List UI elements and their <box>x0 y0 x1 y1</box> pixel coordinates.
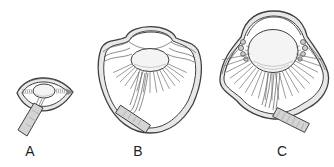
eye-b-drawing <box>90 12 222 152</box>
eye-a-optic-nerve <box>18 103 43 136</box>
eye-c-drawing <box>212 4 334 154</box>
eye-diagram-b <box>90 12 222 152</box>
panel-label-c: C <box>275 144 289 159</box>
panel-label-b: B <box>131 144 145 159</box>
eye-diagram-c <box>212 4 334 154</box>
eye-b-lens <box>131 49 169 72</box>
panel-label-a: A <box>23 144 37 159</box>
eye-a-lens <box>33 84 55 98</box>
comparative-eye-anatomy-figure: A B C <box>0 0 334 167</box>
